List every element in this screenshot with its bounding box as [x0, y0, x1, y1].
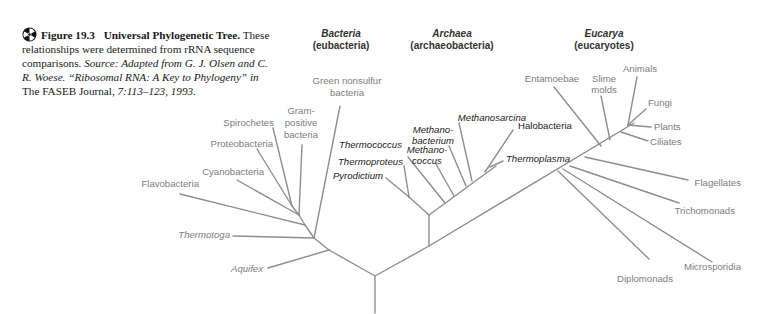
- label-gram-positive-1: Gram-: [287, 105, 314, 116]
- label-thermoproteus: Thermoproteus: [338, 156, 403, 167]
- domain-eucarya-subtitle: (eucaryotes): [574, 40, 633, 51]
- label-halobacteria: Halobacteria: [518, 120, 573, 131]
- label-flavobacteria: Flavobacteria: [141, 178, 199, 189]
- label-trichomonads: Trichomonads: [675, 205, 736, 216]
- label-methanococcus-2: coccus: [412, 155, 442, 166]
- label-animals: Animals: [623, 63, 657, 74]
- domain-archaea-title: Archaea: [431, 28, 472, 39]
- domain-bacteria-title: Bacteria: [321, 28, 361, 39]
- label-diplomonads: Diplomonads: [617, 273, 673, 284]
- label-cyanobacteria: Cyanobacteria: [202, 166, 265, 177]
- label-ciliates: Ciliates: [650, 136, 682, 147]
- label-gram-positive-3: bacteria: [284, 129, 319, 140]
- label-flagellates: Flagellates: [695, 177, 742, 188]
- domain-bacteria-subtitle: (eubacteria): [313, 40, 370, 51]
- phylogenetic-tree: Bacteria (eubacteria) Archaea (archaeoba…: [0, 0, 762, 314]
- label-methanosarcina: Methanosarcina: [458, 112, 526, 123]
- label-slime-molds-1: Slime: [592, 73, 616, 84]
- label-spirochetes: Spirochetes: [223, 117, 274, 128]
- label-pyrodictium: Pyrodictium: [333, 170, 383, 181]
- label-aquifex: Aquifex: [230, 263, 264, 274]
- label-fungi: Fungi: [648, 97, 672, 108]
- label-methanococcus-1: Methano-: [407, 144, 448, 155]
- label-thermococcus: Thermococcus: [339, 139, 402, 150]
- domain-eucarya-title: Eucarya: [585, 28, 624, 39]
- label-thermotoga: Thermotoga: [178, 229, 230, 240]
- label-thermoplasma: Thermoplasma: [506, 153, 570, 164]
- label-green-nonsulfur-1: Green nonsulfur: [313, 75, 383, 86]
- label-microsporidia: Microsporidia: [684, 261, 742, 272]
- label-gram-positive-2: positive: [285, 117, 318, 128]
- label-entamoebae: Entamoebae: [525, 73, 579, 84]
- domain-archaea-subtitle: (archaeobacteria): [410, 40, 493, 51]
- label-green-nonsulfur-2: bacteria: [330, 87, 365, 98]
- label-proteobacteria: Proteobacteria: [211, 138, 274, 149]
- label-methanobacterium-1: Methano-: [413, 124, 454, 135]
- label-slime-molds-2: molds: [591, 84, 617, 95]
- label-plants: Plants: [654, 121, 681, 132]
